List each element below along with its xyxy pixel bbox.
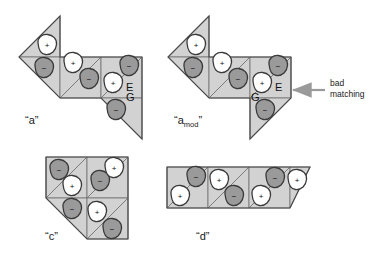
tile-sign: + [111, 79, 116, 88]
caption-amod-close: ” [198, 114, 202, 126]
tile-sign: + [259, 192, 264, 201]
tile-sign: − [110, 225, 115, 234]
bad-matching-line1: bad [330, 78, 344, 88]
edge-label-G: G [251, 91, 260, 103]
tile-sign: + [70, 182, 75, 191]
tile-sign: + [71, 59, 76, 68]
tile-sign: + [194, 41, 199, 50]
tile-sign: − [42, 64, 47, 73]
tile-sign: − [194, 173, 199, 182]
shape-d: + − + − + − + [167, 166, 310, 208]
tile-sign: + [295, 176, 300, 185]
tile-sign: − [70, 205, 75, 214]
tile-sign: − [191, 64, 196, 73]
tile-sign: − [98, 177, 103, 186]
tile-sign: − [232, 192, 237, 201]
edge-label-E: E [275, 81, 282, 93]
tiling-figure: + − + − + − − E G “a” [0, 0, 370, 255]
tile-sign: + [95, 208, 100, 217]
tile-sign: − [236, 75, 241, 84]
tile-sign: − [57, 166, 62, 175]
edge-label-G: G [126, 91, 135, 103]
tile-sign: + [220, 59, 225, 68]
caption-c: “c” [45, 230, 58, 242]
tile-sign: − [87, 75, 92, 84]
tile-sign: − [114, 106, 119, 115]
caption-d: “d” [196, 230, 210, 242]
tile-sign: + [217, 176, 222, 185]
tile-sign: + [260, 79, 265, 88]
bad-matching-line2: matching [330, 89, 365, 99]
tile-sign: − [263, 106, 268, 115]
caption-amod-sub: mod [184, 120, 199, 129]
tile-sign: − [127, 62, 132, 71]
tile-sign: + [45, 41, 50, 50]
caption-a: “a” [25, 114, 39, 126]
tile-sign: + [178, 192, 183, 201]
tile-sign: − [273, 174, 278, 183]
tile-sign: − [276, 62, 281, 71]
tile-sign: + [112, 164, 117, 173]
